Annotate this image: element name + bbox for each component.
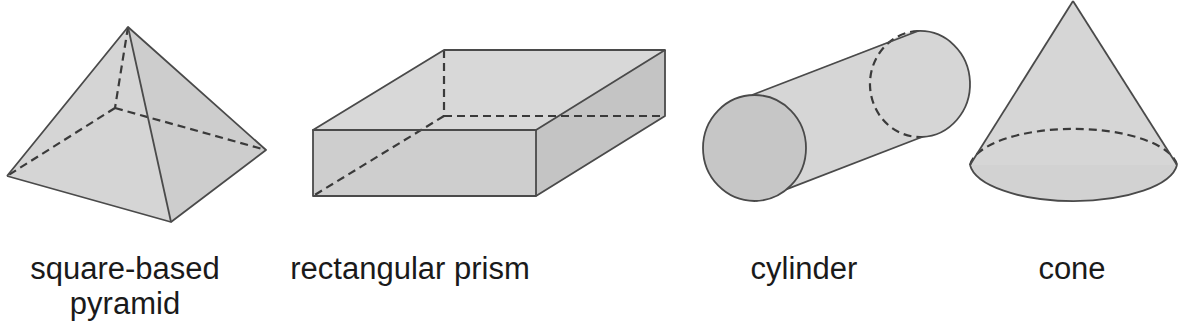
rectangular-prism-figure xyxy=(313,50,665,196)
rectangular-prism-label: rectangular prism xyxy=(290,252,529,285)
cylinder-label: cylinder xyxy=(751,252,858,285)
pyramid-label-line2: pyramid xyxy=(70,287,180,320)
pyramid-figure xyxy=(7,27,266,222)
cylinder-figure xyxy=(703,30,970,201)
cone-label: cone xyxy=(1038,252,1105,285)
pyramid-label-line1: square-based xyxy=(30,252,220,285)
solid-shapes-diagram: square-based pyramid rectangular prism c… xyxy=(0,0,1178,324)
cone-figure xyxy=(970,1,1177,201)
